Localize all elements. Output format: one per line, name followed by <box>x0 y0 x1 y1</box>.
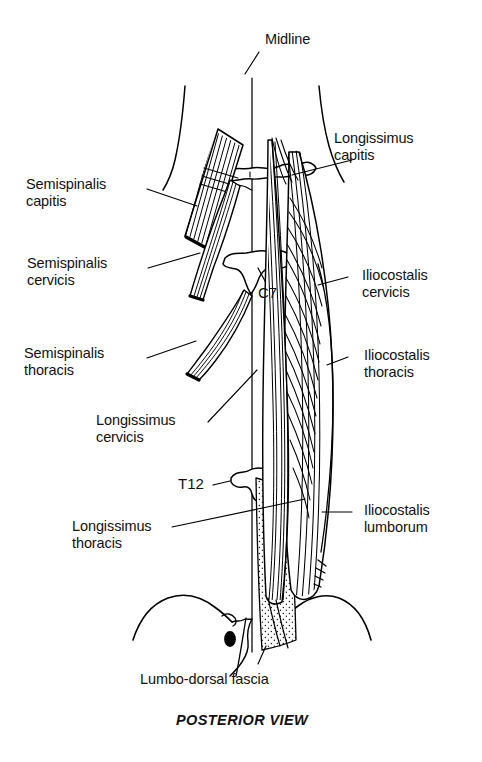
label-iliocostalis-lumborum-line2: lumborum <box>364 519 428 536</box>
iliocostalis-muscle-column <box>283 150 333 604</box>
label-longissimus-capitis-line2: capitis <box>334 147 374 164</box>
label-longissimus-capitis-line1: Longissimus <box>334 130 414 147</box>
semispinalis-thoracis-muscle <box>187 290 252 380</box>
label-midline: Midline <box>265 31 310 48</box>
label-lumbo-dorsal-fascia: Lumbo-dorsal fascia <box>140 671 269 688</box>
label-semispinalis-capitis-line1: Semispinalis <box>26 176 106 193</box>
sacrum-midline-edge <box>236 618 246 676</box>
sacral-foramen-left <box>225 632 235 646</box>
label-longissimus-cervicis-line2: cervicis <box>96 429 144 446</box>
label-vertebra-c7: C7 <box>258 284 277 301</box>
label-iliocostalis-lumborum-line1: Iliocostalis <box>364 502 430 519</box>
label-semispinalis-cervicis-line1: Semispinalis <box>27 255 107 272</box>
label-iliocostalis-thoracis-line2: thoracis <box>364 364 414 381</box>
label-longissimus-thoracis-line1: Longissimus <box>72 518 152 535</box>
leader-semispinalis-capitis <box>147 189 197 206</box>
anatomical-illustration <box>0 0 482 762</box>
label-semispinalis-thoracis-line2: thoracis <box>24 362 74 379</box>
label-longissimus-thoracis-line2: thoracis <box>72 535 122 552</box>
label-semispinalis-cervicis-line2: cervicis <box>27 272 75 289</box>
t12-leader <box>213 481 230 485</box>
label-iliocostalis-cervicis-line1: Iliocostalis <box>362 267 428 284</box>
label-iliocostalis-thoracis-line1: Iliocostalis <box>364 347 430 364</box>
label-vertebra-t12: T12 <box>178 475 204 492</box>
leader-longissimus-cervicis <box>208 370 257 422</box>
iliac-crest-left <box>133 595 232 640</box>
leader-semispinalis-thoracis <box>147 341 196 358</box>
label-iliocostalis-cervicis-line2: cervicis <box>362 284 410 301</box>
figure-caption: POSTERIOR VIEW <box>176 712 308 728</box>
label-semispinalis-capitis-line2: capitis <box>26 193 66 210</box>
label-semispinalis-thoracis-line1: Semispinalis <box>24 345 104 362</box>
label-longissimus-cervicis-line1: Longissimus <box>96 412 176 429</box>
iliac-crest-right <box>285 596 371 640</box>
neck-outline-left <box>163 86 185 190</box>
leader-semispinalis-cervicis <box>148 253 200 268</box>
midline-leader <box>245 52 259 74</box>
anatomy-figure-page: { "figure": { "caption": "POSTERIOR VIEW… <box>0 0 482 762</box>
